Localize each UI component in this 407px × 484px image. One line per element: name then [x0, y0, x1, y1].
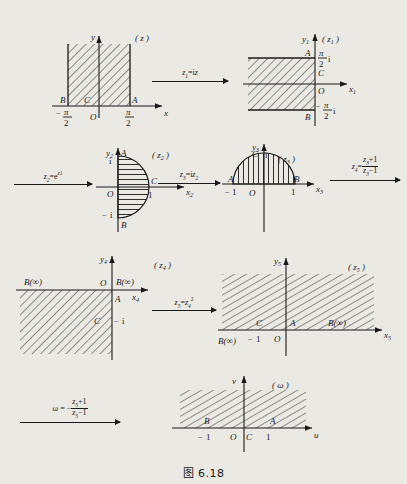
arrow-4-formula: z4= z3+1 z3−1	[330, 156, 400, 178]
tick-pi-2-i: π 2 i	[318, 48, 331, 69]
arrow-2-line	[14, 184, 92, 185]
region-z5	[222, 274, 374, 330]
svg-text:2: 2	[64, 118, 69, 128]
point-C: C	[151, 176, 158, 186]
origin-label: O	[249, 188, 256, 198]
svg-text:π: π	[319, 48, 324, 58]
axis-label-x3: x3	[315, 184, 323, 195]
axis-label-y: y	[90, 32, 95, 42]
point-C: C	[318, 68, 325, 78]
panel-label-z4: ( z4 )	[154, 260, 171, 271]
figure-6-18: y x ( z ) B C A O − π 2 π 2 z1=iz	[0, 0, 407, 484]
axis-label-v: v	[232, 376, 236, 386]
svg-text:−: −	[198, 433, 203, 442]
tick-neg-1: − 1	[225, 187, 237, 197]
arrow-3-formula: z3=iz2	[158, 170, 220, 181]
arrow-4: z4= z3+1 z3−1	[330, 156, 400, 181]
point-C: C	[246, 432, 253, 442]
axis-label-x2: x2	[185, 187, 193, 198]
svg-text:i: i	[333, 106, 336, 116]
origin-label: O	[90, 112, 97, 122]
svg-text:2: 2	[324, 111, 329, 121]
tick-neg-i: − i	[114, 316, 125, 326]
point-B: B	[294, 174, 300, 184]
point-A: A	[227, 174, 234, 184]
arrow-2: z2=ez1	[14, 170, 92, 185]
point-B: B	[204, 416, 210, 426]
svg-text:i: i	[122, 316, 125, 326]
svg-text:1: 1	[206, 432, 211, 442]
origin-label: O	[100, 278, 107, 288]
tick-1: 1	[291, 187, 296, 197]
point-A: A	[289, 318, 296, 328]
panel-label-z5: ( z5 )	[348, 262, 365, 273]
tick-neg-i: − i	[102, 210, 113, 220]
svg-text:i: i	[110, 210, 113, 220]
point-A: A	[120, 148, 127, 158]
point-B-left: B(∞)	[24, 277, 42, 287]
arrow-5-formula: z5=z42	[152, 296, 216, 308]
tick-pi-2: π 2	[125, 107, 134, 128]
tick-neg-pi-2-i: − π 2 i	[316, 100, 336, 121]
origin-label: O	[318, 86, 325, 96]
svg-text:−: −	[248, 335, 253, 344]
axis-label-x5: x5	[383, 330, 391, 341]
axis-label-x1: x1	[348, 84, 356, 95]
point-C: C	[94, 316, 101, 326]
svg-text:π: π	[324, 100, 329, 110]
arrow-5: z5=z42	[152, 296, 216, 311]
arrow-5-line	[152, 310, 216, 311]
origin-label: O	[230, 432, 237, 442]
arrow-1-line	[152, 81, 228, 82]
arrow-6-line	[20, 422, 120, 423]
point-B: B	[60, 95, 66, 105]
tick-1: 1	[148, 190, 153, 200]
tick-neg-1: − 1	[248, 334, 261, 344]
svg-text:2: 2	[126, 118, 131, 128]
panel-label-z1: ( z1 )	[322, 34, 339, 45]
svg-text:π: π	[126, 107, 131, 117]
svg-text:−: −	[316, 102, 321, 111]
arrow-3: z3=iz2	[158, 170, 220, 184]
tick-1: 1	[266, 432, 271, 442]
tick-neg-pi-2: − π 2	[56, 107, 72, 128]
arrow-1-formula: z1=iz	[152, 68, 228, 79]
svg-text:1: 1	[232, 187, 237, 197]
point-B: B	[305, 112, 311, 122]
axis-label-y5: y5	[273, 256, 281, 267]
svg-text:−: −	[56, 109, 61, 118]
panel-label-w: ( ω )	[272, 380, 289, 390]
panel-z2: y2 x2 ( z2 ) A C B O i − i 1	[88, 142, 198, 242]
arrow-6: ω = − z5+1 z5−1	[20, 398, 120, 423]
svg-text:π: π	[64, 107, 69, 117]
arrow-6-formula: ω = − z5+1 z5−1	[20, 398, 120, 420]
panel-label-z2: ( z2 )	[152, 150, 169, 161]
origin-label: O	[107, 189, 114, 199]
axis-label-x: x	[163, 108, 168, 118]
svg-text:2: 2	[319, 59, 324, 69]
axis-label-y1: y1	[301, 34, 309, 45]
svg-text:−: −	[225, 188, 230, 197]
point-C: C	[256, 318, 263, 328]
point-C: C	[252, 149, 259, 159]
svg-text:i: i	[328, 54, 331, 64]
axis-label-u: u	[314, 430, 319, 440]
tick-neg-1: − 1	[198, 432, 211, 442]
axis-label-y4: y4	[99, 254, 107, 265]
point-B-left: B(∞)	[218, 336, 236, 346]
point-A: A	[269, 416, 276, 426]
panel-label-z3: ( z3 )	[278, 154, 295, 165]
svg-text:1: 1	[256, 334, 261, 344]
point-A: A	[304, 48, 311, 58]
svg-text:−: −	[102, 211, 107, 220]
point-B-right: B(∞)	[116, 277, 134, 287]
point-B-right: B(∞)	[328, 318, 346, 328]
arrow-4-line	[330, 180, 400, 181]
panel-z3: y3 x3 ( z3 ) A C B O i − 1 1	[216, 140, 336, 244]
panel-w: v u ( ω ) B A C O − 1 1	[160, 372, 340, 460]
point-B: B	[121, 220, 127, 230]
region-w	[180, 390, 306, 428]
panel-z5: y5 x5 ( z5 ) B(∞) C A B(∞) O − 1	[212, 252, 404, 364]
panel-label-z: ( z )	[135, 33, 149, 43]
svg-text:−: −	[114, 317, 119, 326]
